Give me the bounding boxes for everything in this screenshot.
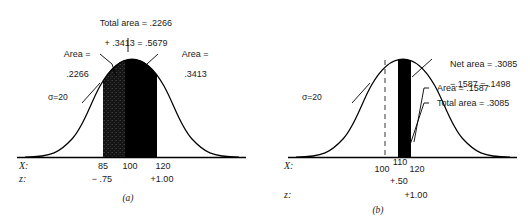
panel-b-net-area-line1: Net area = .3085 [450,59,517,69]
panel-a-right-area-callout: Area = .3413 [160,39,216,89]
panel-a-z-axis-name: z: [19,173,26,184]
panel-a: Total area = .2266 + .3413 = .5679 Area … [0,0,265,224]
panel-b-z-tick-pos50: +.50 [382,176,416,186]
panel-a-left-area-callout: Area = .2266 [42,39,98,89]
panel-a-x-tick-100: 100 [117,161,143,171]
panel-b: Net area = .3085 −.1587 = .1498 Area = .… [265,0,530,224]
panel-a-total-area-line2: + .3413 = .5679 [104,38,167,48]
panel-a-right-area-line1: Area = [182,49,209,59]
panel-b-caption: (b) [358,205,398,216]
panel-a-x-tick-85: 85 [90,161,116,171]
panel-a-right-area-line2: .3413 [184,69,207,79]
panel-b-area-callout: Area = .1587 [437,83,489,93]
panel-a-caption: (a) [108,193,148,204]
panel-b-x-axis-name: X: [284,160,293,171]
panel-b-sigma-label: σ=20 [302,93,322,103]
panel-b-total-area-callout: Total area = .3085 [437,98,509,108]
panel-a-x-tick-120: 120 [150,161,176,171]
panel-a-sigma-label: σ=20 [48,93,68,103]
panel-a-x-axis-name: X: [19,160,28,171]
panel-a-z-tick-neg75: − .75 [84,174,120,184]
panel-b-z-axis-name: z: [284,189,291,200]
panel-b-x-tick-120: 120 [404,164,430,174]
figure-root: Total area = .2266 + .3413 = .5679 Area … [0,0,530,224]
panel-b-z-tick-pos100: +1.00 [396,190,436,200]
panel-a-z-tick-pos100: +1.00 [142,174,182,184]
panel-a-left-area-line1: Area = [64,49,91,59]
panel-a-total-area-line1: Total area = .2266 [100,18,172,28]
panel-a-left-area-line2: .2266 [66,69,89,79]
